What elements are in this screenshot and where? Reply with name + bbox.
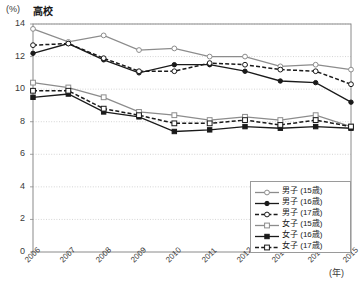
y-axis-tick-label: 10 bbox=[7, 83, 25, 93]
y-axis-tick-label: 12 bbox=[7, 51, 25, 61]
y-axis-tick-label: 0 bbox=[7, 246, 25, 256]
legend-item-label: 女子 (17歳) bbox=[280, 239, 322, 250]
legend-marker-open-circle-icon bbox=[254, 184, 280, 195]
legend-marker-open-square-icon bbox=[254, 239, 280, 250]
legend-item-label: 女子 (16歳) bbox=[280, 228, 322, 239]
legend-marker-open-square-icon bbox=[254, 217, 280, 228]
legend-item: 女子 (17歳) bbox=[254, 239, 347, 250]
y-axis-tick-label: 4 bbox=[7, 181, 25, 191]
legend-item: 男子 (17歳) bbox=[254, 206, 347, 217]
y-axis-tick-label: 6 bbox=[7, 148, 25, 158]
legend-marker-filled-square-icon bbox=[254, 228, 280, 239]
legend-marker-filled-circle-icon bbox=[254, 195, 280, 206]
y-axis-tick-label: 2 bbox=[7, 213, 25, 223]
legend-item-label: 男子 (16歳) bbox=[280, 195, 322, 206]
legend-item: 女子 (16歳) bbox=[254, 228, 347, 239]
legend-item: 男子 (15歳) bbox=[254, 184, 347, 195]
y-axis-tick-label: 14 bbox=[7, 18, 25, 28]
legend-item: 女子 (15歳) bbox=[254, 217, 347, 228]
legend-marker-open-circle-icon bbox=[254, 206, 280, 217]
chart-container: (%) 高校 02468101214 200620072008200920102… bbox=[0, 0, 359, 286]
legend-item-label: 女子 (15歳) bbox=[280, 217, 322, 228]
x-axis-unit-label: (年) bbox=[329, 266, 344, 279]
legend-item: 男子 (16歳) bbox=[254, 195, 347, 206]
legend-item-label: 男子 (17歳) bbox=[280, 206, 322, 217]
y-axis-tick-label: 8 bbox=[7, 116, 25, 126]
chart-legend: 男子 (15歳)男子 (16歳)男子 (17歳)女子 (15歳)女子 (16歳)… bbox=[250, 181, 351, 253]
legend-item-label: 男子 (15歳) bbox=[280, 184, 322, 195]
